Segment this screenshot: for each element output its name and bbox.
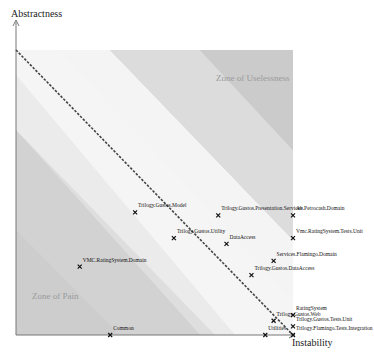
zone-of-pain-label: Zone of Pain [32,291,79,301]
point-label: DataAccess [230,235,256,241]
zone-of-uselessness-label: Zone of Uselessness [216,73,290,83]
point-label: Trilogy.Gustos.Presentation.Services [221,206,302,212]
point-label: VMC.RatingSystem.Domain [83,258,147,264]
point-label: Services.Flamingo.Domain [277,252,337,258]
y-axis-title: Abstractness [11,8,62,19]
point-label: Trilogy.Flamingo.Tests.Integration [296,326,373,332]
point-label: Trilogy.Gustos.Tests.Unit [296,317,352,323]
point-label: Trilogy.Gustos.Utility [177,229,225,235]
point-label: Trilogy.Gustos.DataAccess [254,266,314,272]
abstractness-instability-chart [0,0,374,355]
point-label: Trilogy.Gustos.Model [138,203,186,209]
point-label: Utilities [268,326,286,332]
x-axis-title: Instability [292,337,333,348]
point-label: Common [113,326,133,332]
point-label: Ab.Petrocash.Domain [296,206,345,212]
point-label: Vmc.RatingSystem.Tests.Unit [296,229,363,235]
